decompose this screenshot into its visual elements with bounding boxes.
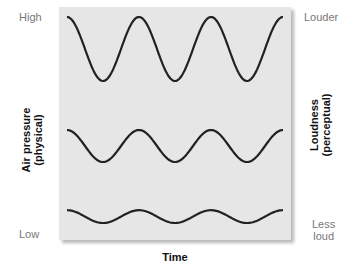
right-axis-title: Loudness (perceptual) (308, 75, 332, 175)
right-axis-title-line2: (perceptual) (320, 75, 332, 175)
wave-soft (67, 210, 283, 223)
left-axis-title: Air pressure (physical) (20, 90, 44, 190)
label-less-loud-line2: loud (312, 230, 335, 242)
waves-svg (0, 0, 351, 272)
right-axis-title-line1: Loudness (308, 75, 320, 175)
wave-medium (67, 130, 283, 162)
wave-loud (67, 17, 283, 81)
left-axis-title-line1: Air pressure (20, 90, 32, 190)
label-less-loud-line1: Less (312, 218, 335, 230)
label-louder: Louder (304, 11, 338, 23)
label-low: Low (19, 228, 39, 240)
x-axis-title: Time (125, 251, 225, 263)
label-less-loud: Less loud (312, 218, 335, 242)
left-axis-title-line2: (physical) (32, 90, 44, 190)
label-high: High (19, 11, 42, 23)
